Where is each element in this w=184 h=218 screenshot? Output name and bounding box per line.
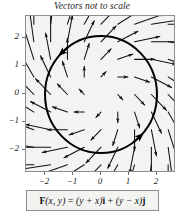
figure-title: Vectors not to scale — [0, 1, 184, 11]
x-tick-label: −2 — [34, 176, 54, 186]
field-vector-arrow — [146, 165, 151, 172]
field-vector-arrow — [101, 26, 116, 42]
field-vector-arrow — [26, 73, 34, 94]
x-tick-label: 2 — [146, 176, 166, 186]
field-vector-arrow — [36, 79, 51, 95]
field-vector-arrow — [57, 84, 67, 95]
equation-text: F(x, y) = (y + x)i + (y − x)j — [39, 196, 145, 206]
y-tick-label: −1 — [1, 115, 19, 125]
vector-field-canvas — [26, 16, 175, 172]
x-tick-mark — [72, 172, 73, 175]
field-vector-arrow — [69, 130, 84, 135]
y-tick-label: −2 — [1, 143, 19, 153]
x-tick-mark — [44, 172, 45, 175]
field-vector-arrow — [151, 95, 166, 111]
y-tick-label: 2 — [1, 31, 19, 41]
field-vector-arrow — [101, 72, 106, 77]
field-vector-arrow — [101, 49, 111, 60]
field-vector-arrow — [52, 107, 67, 112]
field-vector-arrow — [101, 16, 121, 24]
field-vector-arrow — [26, 142, 34, 147]
field-vector-arrow — [62, 61, 67, 77]
y-tick-mark — [22, 93, 25, 94]
y-tick-mark — [22, 121, 25, 122]
field-vector-arrow — [81, 165, 101, 172]
overlay-circle — [45, 36, 157, 153]
field-vector-arrow — [51, 16, 56, 24]
equation-box: F(x, y) = (y + x)i + (y − x)j — [26, 190, 159, 211]
field-vector-arrow — [168, 59, 175, 70]
field-vector-arrow — [29, 16, 34, 42]
y-tick-label: 0 — [1, 87, 19, 97]
field-vector-arrow — [118, 95, 123, 100]
field-vector-arrow — [135, 37, 160, 42]
field-vector-arrow — [79, 89, 84, 94]
quiver-arrows — [26, 16, 175, 172]
field-vector-arrow — [113, 130, 118, 146]
field-vector-arrow — [84, 44, 89, 60]
field-vector-arrow — [118, 54, 133, 59]
field-vector-arrow — [84, 16, 99, 24]
field-vector-arrow — [168, 147, 173, 172]
field-vector-arrow — [26, 165, 51, 170]
field-vector-arrow — [26, 96, 34, 112]
y-tick-mark — [22, 65, 25, 66]
y-tick-label: 1 — [1, 59, 19, 69]
x-tick-mark — [100, 172, 101, 175]
field-vector-arrow — [86, 147, 101, 163]
field-vector-arrow — [168, 42, 175, 47]
y-tick-mark — [22, 149, 25, 150]
field-vector-arrow — [67, 16, 72, 42]
x-tick-label: −1 — [62, 176, 82, 186]
x-tick-label: 1 — [118, 176, 138, 186]
field-vector-arrow — [135, 77, 150, 82]
field-vector-arrow — [151, 19, 175, 24]
field-vector-arrow — [151, 130, 156, 156]
field-vector-arrow — [168, 95, 175, 116]
field-vector-arrow — [135, 112, 140, 128]
vector-field-figure: Vectors not to scale −2−1012 210−1−2 F(x… — [0, 0, 184, 218]
field-vector-arrow — [91, 130, 101, 141]
x-tick-mark — [128, 172, 129, 175]
x-tick-mark — [156, 172, 157, 175]
plot-area — [25, 15, 175, 172]
x-tick-label: 0 — [90, 176, 110, 186]
field-vector-arrow — [103, 165, 118, 172]
field-vector-arrow — [26, 124, 51, 129]
field-vector-arrow — [96, 112, 101, 117]
field-vector-arrow — [46, 33, 51, 59]
field-vector-arrow — [135, 95, 145, 106]
field-vector-arrow — [168, 77, 175, 93]
y-tick-mark — [22, 37, 25, 38]
field-vector-arrow — [42, 147, 67, 152]
